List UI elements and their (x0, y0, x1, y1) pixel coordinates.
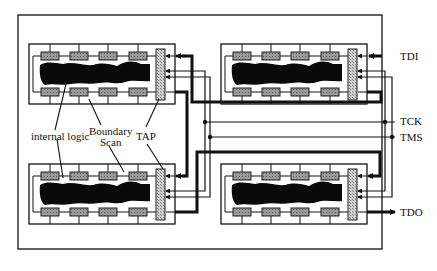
chip-bottom-left (29, 164, 175, 224)
tdi-label: TDI (400, 51, 418, 62)
boundary-scan-label-line2: Scan (100, 137, 121, 148)
tdo-label: TDO (400, 207, 423, 218)
tap-label: TAP (136, 131, 156, 142)
chip-bottom-right (221, 164, 367, 224)
chip-top-right (221, 44, 367, 104)
internal-logic-label: internal logic (31, 131, 89, 142)
tck-label: TCK (400, 116, 422, 127)
tms-label: TMS (400, 132, 423, 143)
chip-top-left (29, 44, 175, 104)
